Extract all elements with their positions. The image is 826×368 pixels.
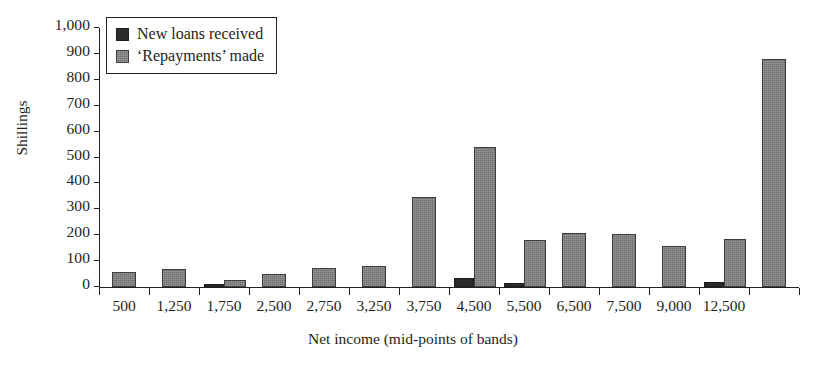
y-tick-label: 500 [66,147,90,162]
x-tick-mark [649,288,650,295]
x-tick-mark [499,288,500,295]
x-tick-label: 12,500 [703,297,746,314]
x-tick-label: 2,500 [257,297,292,314]
x-axis-title: Net income (mid-points of bands) [0,330,826,348]
x-tick-label: 7,500 [607,297,642,314]
y-tick-label: 700 [66,95,90,110]
bar-repayments-made [562,233,586,287]
legend-item: New loans received [116,23,264,45]
x-tick-mark [799,288,800,295]
bar-repayments-made [224,280,246,287]
x-tick-label: 3,750 [407,297,442,314]
bar-repayments-made [662,246,686,287]
bar-repayments-made [474,147,496,287]
legend-label: ‘Repayments’ made [137,47,264,65]
legend-swatch-repayments-icon [116,50,129,63]
x-tick-label: 5,500 [507,297,542,314]
bar-repayments-made [412,197,436,287]
x-axis-ticks: 5001,2501,7502,5002,7503,2503,7504,5005,… [0,288,826,328]
x-tick-mark [199,288,200,295]
x-tick-mark [749,288,750,295]
y-tick-label: 1,000 [55,17,90,32]
bar-repayments-made [724,239,746,287]
x-tick-mark [399,288,400,295]
bar-new-loans-received [454,278,474,287]
x-tick-label: 6,500 [557,297,592,314]
bar-repayments-made [112,272,136,287]
x-tick-label: 500 [112,297,135,314]
x-tick-mark [699,288,700,295]
y-tick-label: 200 [66,224,90,239]
y-tick-label: 400 [66,172,90,187]
x-tick-label: 3,250 [357,297,392,314]
bar-repayments-made [612,234,636,287]
x-tick-mark [349,288,350,295]
bar-repayments-made [312,268,336,287]
x-tick-label: 1,750 [207,297,242,314]
x-tick-label: 4,500 [457,297,492,314]
x-tick-label: 2,750 [307,297,342,314]
x-tick-mark [299,288,300,295]
legend-label: New loans received [137,25,263,43]
bar-repayments-made [762,59,786,287]
bar-repayments-made [524,240,546,287]
y-tick-label: 900 [66,43,90,58]
x-tick-mark [599,288,600,295]
bar-repayments-made [362,266,386,287]
y-tick-label: 800 [66,69,90,84]
bar-repayments-made [162,269,186,287]
y-tick-label: 100 [66,250,90,265]
legend: New loans received‘Repayments’ made [106,17,277,74]
legend-swatch-new-loans-icon [116,28,129,41]
x-tick-mark [99,288,100,295]
bar-chart: Shillings 01002003004005006007008009001,… [0,0,826,368]
x-tick-mark [549,288,550,295]
y-tick-label: 600 [66,121,90,136]
x-tick-mark [149,288,150,295]
x-tick-label: 1,250 [157,297,192,314]
x-tick-label: 9,000 [657,297,692,314]
x-tick-mark [249,288,250,295]
y-tick-label: 300 [66,198,90,213]
y-axis-ticks: 01002003004005006007008009001,000 [0,28,99,288]
bar-repayments-made [262,274,286,287]
x-tick-mark [449,288,450,295]
legend-item: ‘Repayments’ made [116,45,264,67]
